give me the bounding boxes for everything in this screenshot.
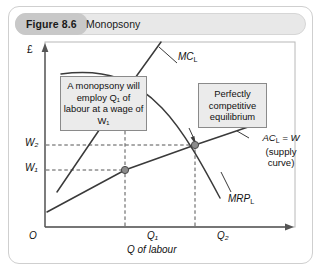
curve-label-ac-text: AC xyxy=(262,132,275,143)
x-axis-label: Q of labour xyxy=(127,244,176,255)
curve-label-mrp-subscript: L xyxy=(250,197,254,206)
curve-label-mc-subscript: L xyxy=(194,55,198,64)
curve-label-ac-equals-w: = W xyxy=(280,132,300,143)
chart-plot-area: £ O W₂ W₁ Q₁ Q₂ Q of labour MCL MRPL ACL… xyxy=(15,40,306,258)
point-monopsony-wage xyxy=(121,166,128,173)
curve-label-mrp-text: MRP xyxy=(228,193,250,204)
curve-label-mc-text: MC xyxy=(178,51,194,62)
origin-label: O xyxy=(29,230,37,241)
curve-label-supply-note: (supply curve) xyxy=(266,146,297,168)
annotation-box-monopsony: A monopsony will employ Q₁ of labour at … xyxy=(60,76,147,131)
y-tick-w1: W₁ xyxy=(25,162,38,173)
curve-label-mc-l: MCL xyxy=(178,51,198,64)
point-competitive-equilibrium xyxy=(191,141,198,148)
curve-label-mrp-l: MRPL xyxy=(228,193,254,206)
figure-title: Monopsony xyxy=(86,13,140,35)
curve-label-ac-l-supply: ACL = W(supply curve) xyxy=(252,132,310,169)
x-tick-q1: Q₁ xyxy=(147,230,158,241)
figure-card: Figure 8.6 Monopsony xyxy=(0,0,321,274)
y-axis-label: £ xyxy=(27,44,33,55)
y-tick-w2: W₂ xyxy=(25,137,38,148)
x-tick-q2: Q₂ xyxy=(217,230,229,241)
annotation-box-competitive-equilibrium: Perfectly competitive equilibrium xyxy=(198,83,267,128)
figure-number-badge: Figure 8.6 xyxy=(15,13,88,35)
